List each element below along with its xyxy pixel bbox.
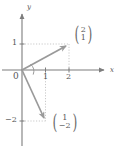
vector-b-component-y: −2 — [59, 122, 71, 130]
vectors — [22, 46, 66, 118]
tick-label-y-1: 1 — [12, 39, 17, 47]
guide-lines — [22, 44, 69, 121]
tick-label-x-2: 2 — [66, 73, 71, 81]
left-paren-b: ( — [52, 115, 57, 129]
vector-diagram: y x 0 1 2 1 −2 ( 2 1 ) ( 1 −2 ) — [0, 0, 119, 148]
y-axis-label: y — [27, 4, 31, 11]
right-paren-a: ) — [87, 27, 92, 41]
vector-a-label: ( 2 1 ) — [73, 26, 94, 43]
vector-a-component-y: 1 — [81, 34, 86, 42]
tick-label-x-1: 1 — [43, 73, 48, 81]
vector-b-components: 1 −2 — [59, 114, 71, 131]
vector-a-components: 2 1 — [81, 26, 86, 43]
origin-label: 0 — [13, 72, 19, 81]
x-axis-label: x — [110, 67, 114, 74]
vector-b-label: ( 1 −2 ) — [51, 114, 78, 131]
vector-b-arrow — [22, 70, 44, 118]
left-paren-a: ( — [74, 27, 79, 41]
vector-a-arrow — [22, 46, 66, 70]
right-paren-b: ) — [72, 115, 77, 129]
tick-label-y-minus2: −2 — [5, 116, 17, 124]
